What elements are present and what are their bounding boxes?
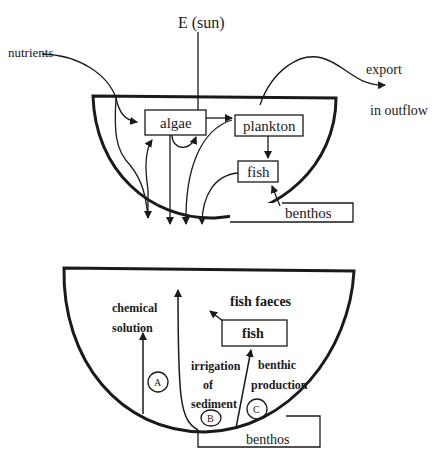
top-diagram: E (sun) nutrients export in outflow alga… <box>8 14 429 224</box>
production-label: production <box>251 378 308 392</box>
chemical-label: chemical <box>112 301 158 315</box>
svg-text:benthos: benthos <box>246 432 290 447</box>
benthos-box-top: benthos <box>230 203 353 224</box>
outflow-label: in outflow <box>370 103 429 118</box>
fish-box-top: fish <box>238 161 278 182</box>
svg-text:algae: algae <box>160 115 192 131</box>
svg-text:A: A <box>154 377 162 388</box>
lake-nutrient-flow-diagram: E (sun) nutrients export in outflow alga… <box>0 0 447 457</box>
algae-recycle-loop <box>172 135 196 147</box>
nutrients-down-line <box>115 98 148 218</box>
svg-text:C: C <box>253 404 260 415</box>
algae-box: algae <box>145 110 206 135</box>
svg-text:benthos: benthos <box>285 205 332 221</box>
fish-box-bottom: fish <box>222 320 287 346</box>
svg-text:fish: fish <box>247 164 270 180</box>
bottom-diagram: chemical solution A fish faeces fish irr… <box>64 268 354 447</box>
sediment-label: sediment <box>191 397 237 411</box>
marker-a: A <box>148 372 168 392</box>
benthic-label: benthic <box>258 358 297 372</box>
svg-text:plankton: plankton <box>243 118 296 134</box>
irrigation-label: irrigation <box>191 359 241 373</box>
plankton-box: plankton <box>235 115 303 136</box>
marker-c: C <box>247 399 267 419</box>
solution-label: solution <box>112 321 153 335</box>
lake-basin-top <box>93 96 336 218</box>
marker-b: B <box>201 410 221 426</box>
sediment-algae-exchange-arrow <box>146 140 152 190</box>
svg-text:B: B <box>207 413 214 424</box>
svg-text:fish: fish <box>242 326 264 341</box>
nutrients-label: nutrients <box>8 45 54 60</box>
irrigation-of-label: of <box>203 378 214 392</box>
export-label: export <box>366 62 402 77</box>
fish-faeces-label: fish faeces <box>230 294 292 309</box>
sun-label: E (sun) <box>178 14 225 32</box>
nutrients-arrow <box>42 54 137 122</box>
